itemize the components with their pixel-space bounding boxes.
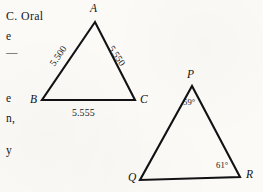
margin-text-line: e bbox=[6, 31, 11, 43]
vertex-label-a: A bbox=[90, 3, 97, 15]
margin-text-line: — bbox=[6, 47, 18, 59]
vertex-label-p: P bbox=[187, 69, 194, 81]
angle-label-p: 59° bbox=[183, 98, 195, 107]
vertex-label-c: C bbox=[140, 94, 148, 106]
margin-text-line: n, bbox=[6, 113, 15, 125]
margin-text-line: y bbox=[6, 145, 12, 157]
margin-text-line: e bbox=[6, 93, 11, 105]
vertex-label-r: R bbox=[246, 169, 253, 181]
vertex-label-q: Q bbox=[128, 172, 136, 184]
side-length-label-bc: 5.555 bbox=[72, 108, 95, 118]
margin-text-line: C. Oral bbox=[6, 11, 44, 23]
scanned-page: C. Orale—en,y ABC5.5005.5505.555PQR59°61… bbox=[0, 0, 263, 192]
vertex-label-b: B bbox=[30, 94, 37, 106]
angle-label-r: 61° bbox=[216, 161, 228, 170]
